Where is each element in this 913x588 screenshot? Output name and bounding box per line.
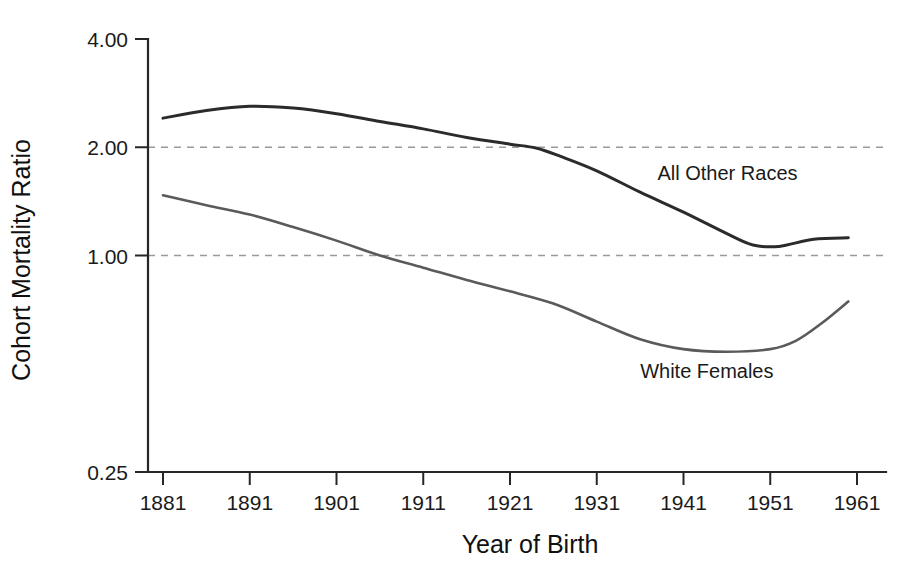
y-tick-label: 2.00 (87, 136, 128, 159)
cohort-mortality-ratio-chart: 4.002.001.000.25 18811891190119111921193… (0, 0, 913, 588)
series-label: White Females (640, 360, 773, 382)
x-tick-label: 1961 (834, 491, 881, 514)
x-axis-title: Year of Birth (462, 530, 599, 558)
y-tick-group: 4.002.001.000.25 (87, 28, 148, 484)
chart-container: 4.002.001.000.25 18811891190119111921193… (0, 0, 913, 588)
x-tick-label: 1931 (573, 491, 620, 514)
x-tick-label: 1921 (487, 491, 534, 514)
y-tick-label: 4.00 (87, 28, 128, 51)
x-tick-label: 1941 (660, 491, 707, 514)
series-label: All Other Races (657, 162, 797, 184)
x-tick-group: 188118911901191119211931194119511961 (140, 472, 881, 514)
x-tick-label: 1911 (401, 491, 446, 514)
x-tick-label: 1891 (226, 491, 273, 514)
series-line (163, 195, 848, 351)
x-tick-label: 1951 (747, 491, 794, 514)
x-tick-label: 1881 (140, 491, 187, 514)
y-axis-title: Cohort Mortality Ratio (7, 139, 35, 381)
y-tick-label: 1.00 (87, 245, 128, 268)
series-group (163, 106, 848, 352)
y-tick-label: 0.25 (87, 461, 128, 484)
x-tick-label: 1901 (313, 491, 360, 514)
